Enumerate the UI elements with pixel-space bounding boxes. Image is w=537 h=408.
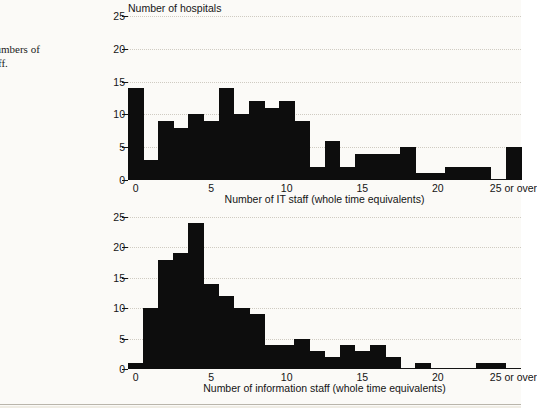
histogram-bar [491,363,507,369]
histogram-bar [294,121,310,180]
histogram-bar [415,173,431,180]
histogram-bar [325,141,341,180]
histogram-bar [294,339,310,369]
histogram-bar [204,284,220,369]
gridline [128,82,521,83]
histogram-bar [158,121,174,180]
histogram-bar [279,345,295,369]
gridline [128,247,521,248]
histogram-bar [309,351,325,369]
histogram-bar [400,147,416,180]
histogram-bar [430,173,446,180]
histogram-bar [264,345,280,369]
histogram-bar [325,357,341,369]
histogram-bar [173,253,189,369]
y-tick-label: 10 [113,108,128,120]
histogram-bar [219,88,235,180]
chart1-plot-area: 0510152025 [128,16,521,180]
chart2-plot-area: 0510152025 [128,217,521,369]
histogram-bar [188,223,204,369]
y-tick-label: 5 [119,333,128,345]
gridline [128,217,521,218]
y-tick-label: 20 [113,43,128,55]
margin-column: f numbers of taff. [0,0,104,408]
histogram-bar [309,167,325,180]
histogram-bar [173,128,189,180]
histogram-bar [340,167,356,180]
figure-caption-line-2: taff. [0,57,100,71]
histogram-bar [234,308,250,369]
histogram-bar [158,260,174,369]
histogram-bar [143,160,159,180]
histogram-bar [370,154,386,180]
histogram-bar [506,147,522,180]
y-tick-label: 0 [119,363,128,375]
histogram-bar [355,351,371,369]
chart2-x-axis-title: Number of information staff (whole time … [128,382,521,394]
histogram-bar [355,154,371,180]
y-tick-label: 25 [113,211,128,223]
y-tick-label: 10 [113,302,128,314]
y-tick-label: 0 [119,174,128,186]
histogram-bar [461,167,477,180]
histogram-bar [249,314,265,369]
histogram-bar [476,363,492,369]
gridline [128,49,521,50]
histogram-bar [204,121,220,180]
histogram-bar [279,101,295,180]
histogram-bar [415,363,431,369]
chart1-x-axis-title: Number of IT staff (whole time equivalen… [128,193,521,205]
chart-it-staff: Number of hospitals 0510152025 051015202… [104,0,521,205]
y-tick-label: 25 [113,10,128,22]
histogram-bar [340,345,356,369]
gridline [128,114,521,115]
page-bottom-rule [0,404,521,405]
chart-information-staff: 0510152025 0510152025 or over Number of … [104,205,521,403]
figure-caption: numbers of taff. [0,43,100,70]
y-tick-label: 15 [113,272,128,284]
chart1-y-axis-title: Number of hospitals [128,2,221,14]
histogram-bar [264,108,280,180]
histogram-bar [219,296,235,369]
histogram-bar [385,357,401,369]
gridline [128,16,521,17]
histogram-bar [128,363,144,369]
y-tick-label: 20 [113,241,128,253]
histogram-bar [188,114,204,180]
histogram-bar [385,154,401,180]
histogram-bar [128,88,144,180]
histogram-bar [445,167,461,180]
histogram-bar [476,167,492,180]
histogram-bar [249,101,265,180]
histogram-bar [143,308,159,369]
figure-caption-line-1: numbers of [0,43,100,57]
y-tick-label: 5 [119,141,128,153]
histogram-bar [370,345,386,369]
histogram-bar [234,114,250,180]
y-tick-label: 15 [113,76,128,88]
